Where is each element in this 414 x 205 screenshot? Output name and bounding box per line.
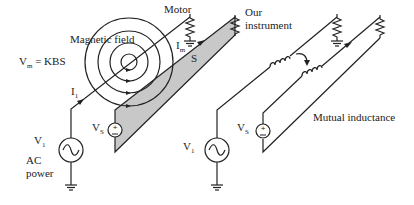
motor-resistor-icon (186, 14, 194, 41)
primary-resistor-icon (333, 14, 341, 41)
instrument-label-line2: instrument (245, 20, 292, 31)
left-vs-label: VS (92, 122, 104, 136)
right-vs-label: VS (237, 122, 249, 136)
secondary-upper-wire (263, 76, 302, 124)
primary-ground-icon (331, 41, 343, 46)
right-v1-label: V1 (183, 141, 194, 155)
sine-glyph-icon-right (209, 145, 225, 156)
spacing-s-label: S (191, 53, 197, 64)
primary-inductor-icon (270, 57, 290, 67)
magnetic-field-label: Magnetic field (70, 34, 134, 45)
equation-label: Vm = KBS (19, 56, 66, 70)
instrument-label-line1: Our (245, 7, 262, 18)
mutual-coupling-arrowhead-icon (304, 60, 310, 66)
ac-power-label-line2: power (26, 168, 54, 179)
ground-icon (65, 185, 77, 190)
left-v1-label: V1 (34, 135, 45, 149)
current-im-label: Im (176, 40, 185, 54)
secondary-inductor-icon (302, 66, 322, 76)
ac-power-label-line1: AC (26, 155, 41, 166)
sine-glyph-icon (63, 145, 79, 156)
mutual-inductance-label: Mutual inductance (313, 112, 395, 123)
motor-ground-icon (184, 41, 196, 46)
plus-sign-icon-right: + (261, 124, 266, 133)
current-i1-label: I1 (71, 86, 78, 100)
ground-icon-right (211, 185, 223, 190)
diagram-canvas: + + (0, 0, 414, 205)
plus-sign-icon: + (113, 123, 118, 132)
secondary-resistor-icon (376, 15, 384, 38)
motor-label: Motor (164, 4, 192, 15)
secondary-lower-wire (263, 38, 380, 152)
